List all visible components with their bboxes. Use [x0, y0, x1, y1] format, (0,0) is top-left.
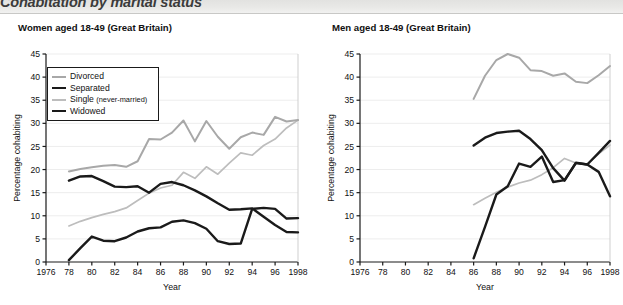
- y-axis-title: Percentage cohabiting: [12, 114, 22, 202]
- y-axis-title: Percentage cohabiting: [326, 114, 336, 202]
- y-tick-label: 5: [35, 234, 40, 244]
- x-tick-label: 96: [270, 267, 280, 277]
- y-tick-label: 10: [344, 211, 354, 221]
- series-line-single: [474, 145, 610, 205]
- series-line-divorced: [69, 117, 298, 172]
- x-tick-label: 88: [492, 267, 502, 277]
- chart-panel-men: Men aged 18-49 (Great Britain) 051015202…: [312, 14, 623, 305]
- legend-label: Separated: [70, 83, 110, 95]
- x-tick-label: 78: [64, 267, 74, 277]
- x-tick-label: 90: [202, 267, 212, 277]
- y-tick-label: 0: [349, 257, 354, 267]
- chart-legend-women: DivorcedSeparatedSingle (never-married)W…: [47, 67, 159, 121]
- y-tick-label: 40: [344, 72, 354, 82]
- series-line-single: [69, 120, 298, 226]
- series-line-widowed: [474, 157, 610, 259]
- y-tick-label: 35: [30, 95, 40, 105]
- page-banner: Cohabitation by marital status: [0, 0, 623, 14]
- x-tick-label: 82: [423, 267, 433, 277]
- x-tick-label: 1976: [36, 267, 55, 277]
- y-tick-label: 25: [344, 142, 354, 152]
- legend-swatch-icon: [52, 87, 66, 89]
- x-tick-label: 78: [378, 267, 388, 277]
- x-tick-label: 80: [401, 267, 411, 277]
- plot-area-women: 0510152025303540451976788082848688909294…: [0, 14, 312, 305]
- x-tick-label: 88: [179, 267, 189, 277]
- y-tick-label: 35: [344, 95, 354, 105]
- y-tick-label: 10: [30, 211, 40, 221]
- y-tick-label: 5: [349, 234, 354, 244]
- y-tick-label: 30: [30, 118, 40, 128]
- legend-item-widowed: Widowed: [52, 106, 153, 118]
- y-tick-label: 20: [344, 165, 354, 175]
- series-line-divorced: [474, 54, 610, 99]
- legend-item-single: Single (never-married): [52, 94, 153, 106]
- y-tick-label: 45: [30, 49, 40, 59]
- x-tick-label: 92: [224, 267, 234, 277]
- y-tick-label: 15: [30, 188, 40, 198]
- x-tick-label: 86: [156, 267, 166, 277]
- y-tick-label: 30: [344, 118, 354, 128]
- legend-label-sub: (never-married): [96, 95, 147, 104]
- series-line-separated: [69, 176, 298, 232]
- legend-label: Divorced: [70, 71, 104, 83]
- legend-swatch-icon: [52, 76, 66, 78]
- x-tick-label: 84: [446, 267, 456, 277]
- y-tick-label: 20: [30, 165, 40, 175]
- x-tick-label: 1998: [600, 267, 619, 277]
- plot-area-men: 0510152025303540451976788082848688909294…: [312, 14, 623, 305]
- legend-label: Single (never-married): [70, 94, 147, 106]
- legend-item-separated: Separated: [52, 83, 153, 95]
- x-tick-label: 96: [582, 267, 592, 277]
- x-tick-label: 94: [560, 267, 570, 277]
- chart-svg-men: 0510152025303540451976788082848688909294…: [312, 14, 623, 305]
- chart-panel-women: Women aged 18-49 (Great Britain) 0510152…: [0, 14, 312, 305]
- x-tick-label: 82: [110, 267, 120, 277]
- x-tick-label: 86: [469, 267, 479, 277]
- legend-label: Widowed: [70, 106, 105, 118]
- legend-swatch-icon: [52, 99, 66, 101]
- legend-swatch-icon: [52, 110, 66, 112]
- x-tick-label: 80: [87, 267, 97, 277]
- y-tick-label: 0: [35, 257, 40, 267]
- y-tick-label: 15: [344, 188, 354, 198]
- x-tick-label: 90: [514, 267, 524, 277]
- legend-item-divorced: Divorced: [52, 71, 153, 83]
- y-tick-label: 25: [30, 142, 40, 152]
- x-tick-label: 84: [133, 267, 143, 277]
- y-tick-label: 45: [344, 49, 354, 59]
- x-tick-label: 92: [537, 267, 547, 277]
- x-tick-label: 94: [247, 267, 257, 277]
- y-tick-label: 40: [30, 72, 40, 82]
- chart-svg-women: 0510152025303540451976788082848688909294…: [0, 14, 312, 305]
- page-title: Cohabitation by marital status: [0, 0, 202, 10]
- x-tick-label: 1976: [350, 267, 369, 277]
- x-axis-title: Year: [163, 282, 181, 292]
- x-tick-label: 1998: [288, 267, 307, 277]
- x-axis-title: Year: [476, 282, 494, 292]
